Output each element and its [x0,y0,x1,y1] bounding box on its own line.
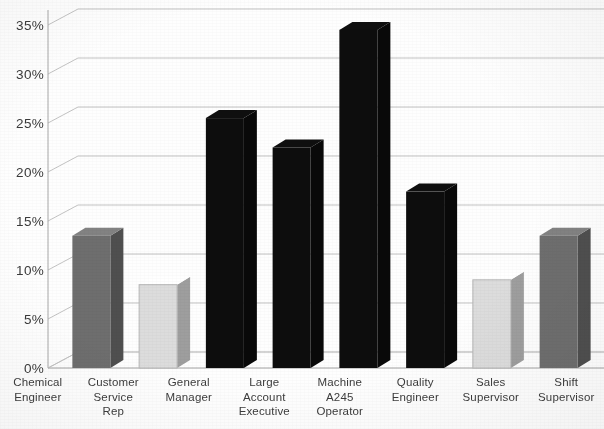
bar-side-face [244,110,257,368]
x-label-line: Customer [77,375,151,390]
gridline-35pct [48,9,604,25]
bar-side-face [377,22,390,368]
bar-side-face [311,140,324,369]
bar-side-face [511,272,524,368]
bar-side-face [444,184,457,368]
x-label-line: Account [228,390,302,405]
bar-customer-service-rep [139,277,190,368]
bar-front-face [206,118,244,368]
bar-front-face [339,30,377,368]
x-label-general-manager: GeneralManager [151,375,227,429]
bar-shift-supervisor [540,228,591,368]
x-label-line: Service [77,390,151,405]
x-label-line: Manager [152,390,226,405]
bar-group [72,22,590,368]
x-axis-category-labels: ChemicalEngineerCustomerServiceRepGenera… [0,375,604,429]
x-label-line: Sales [454,375,528,390]
x-label-line: Executive [228,404,302,419]
x-label-line: Machine [303,375,377,390]
bar-front-face [72,236,110,368]
bar-front-face [473,280,511,368]
x-label-line: Chemical [1,375,75,390]
x-label-line: Engineer [1,390,75,405]
bar-sales-supervisor [473,272,524,368]
x-label-line: Shift [530,375,604,390]
x-label-line: Rep [77,404,151,419]
bar-general-manager [206,110,257,368]
x-label-line: Supervisor [530,390,604,405]
x-label-shift-supervisor: ShiftSupervisor [529,375,604,429]
x-label-large-account-executive: LargeAccountExecutive [227,375,303,429]
x-label-sales-supervisor: SalesSupervisor [453,375,529,429]
gridline-20pct [48,156,604,172]
bar-side-face [177,277,190,368]
x-label-line: Supervisor [454,390,528,405]
bar-front-face [273,148,311,369]
gridline-10pct [48,254,604,270]
x-label-machine-a245-operator: MachineA245Operator [302,375,378,429]
x-label-chemical-engineer: ChemicalEngineer [0,375,76,429]
bar-quality-engineer [406,184,457,368]
x-label-line: A245 [303,390,377,405]
bar-front-face [540,236,578,368]
x-label-line: Large [228,375,302,390]
bar-chart: 0%5%10%15%20%25%30%35% ChemicalEngineerC… [0,0,604,429]
bar-front-face [406,192,444,368]
bar-large-account-executive [273,140,324,369]
bar-side-face [110,228,123,368]
bar-front-face [139,285,177,368]
x-label-quality-engineer: QualityEngineer [378,375,454,429]
gridline-25pct [48,107,604,123]
gridline-15pct [48,205,604,221]
x-label-line: Quality [379,375,453,390]
plot-area [0,0,604,429]
bar-side-face [578,228,591,368]
x-label-line: General [152,375,226,390]
x-label-customer-service-rep: CustomerServiceRep [76,375,152,429]
gridline-30pct [48,58,604,74]
x-label-line: Engineer [379,390,453,405]
bar-machine-a245-operator [339,22,390,368]
x-label-line: Operator [303,404,377,419]
bar-chemical-engineer [72,228,123,368]
